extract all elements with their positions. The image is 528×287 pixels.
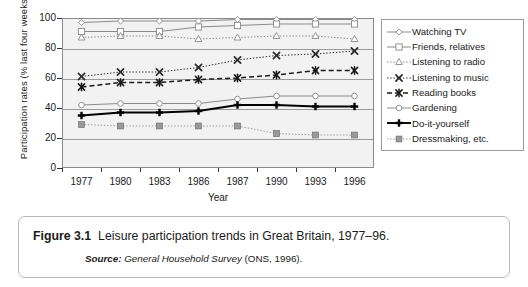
data-point-diamond-open (117, 18, 123, 24)
series-layer (62, 18, 374, 168)
data-point-square-filled (396, 136, 402, 142)
data-point-square-filled (196, 123, 202, 129)
legend-label: Dressmaking, etc. (412, 134, 489, 144)
data-point-diamond-open (234, 16, 240, 22)
y-tick-label: 20 (26, 133, 56, 143)
legend-symbol-square-open-icon (386, 40, 412, 54)
data-point-triangle-open (273, 33, 280, 39)
legend-label: Reading books (412, 88, 476, 98)
data-point-square-filled (313, 132, 319, 138)
data-point-triangle-open (312, 33, 319, 39)
legend-item-do-it-yourself[interactable]: Do-it-yourself (386, 116, 520, 131)
legend-item-friends-relatives[interactable]: Friends, relatives (386, 39, 520, 54)
data-point-square-filled (118, 123, 124, 129)
data-point-plus-bold (78, 112, 85, 119)
x-tick-mark (179, 168, 180, 172)
caption-title-line: Figure 3.1Leisure participation trends i… (33, 229, 389, 243)
y-tick-label: 40 (26, 103, 56, 113)
chart-legend: Watching TVFriends, relativesListening t… (381, 19, 524, 151)
data-point-circle-open (396, 105, 402, 111)
legend-item-listening-to-radio[interactable]: Listening to radio (386, 55, 520, 70)
line-chart: Participation rates (% last four weeks) … (0, 0, 528, 212)
series-listening-to-radio (78, 33, 358, 42)
figure-number: Figure 3.1 (33, 229, 91, 243)
caption-box: Figure 3.1Leisure participation trends i… (18, 216, 510, 278)
legend-label: Watching TV (412, 27, 466, 37)
legend-item-listening-to-music[interactable]: Listening to music (386, 70, 520, 85)
source-label: Source: (85, 253, 121, 264)
figure-title: Leisure participation trends in Great Br… (98, 229, 389, 243)
data-point-circle-open (157, 101, 163, 107)
y-tick-label: 60 (26, 73, 56, 83)
x-tick-mark (335, 168, 336, 172)
data-point-triangle-open (234, 34, 241, 40)
legend-symbol-asterisk-icon (386, 86, 412, 100)
legend-symbol-diamond-open-icon (386, 25, 412, 39)
series-dressmaking-etc (79, 122, 358, 138)
data-point-square-open (351, 21, 357, 27)
y-tick-label: 80 (26, 43, 56, 53)
legend-label: Gardening (412, 103, 457, 113)
data-point-square-open (234, 22, 240, 28)
data-point-x-cross (234, 57, 240, 63)
legend-label: Friends, relatives (412, 42, 485, 52)
x-tick-mark (257, 168, 258, 172)
x-tick-mark (296, 168, 297, 172)
legend-item-reading-books[interactable]: Reading books (386, 85, 520, 100)
x-tick-mark (218, 168, 219, 172)
data-point-circle-open (352, 93, 358, 99)
data-point-circle-open (196, 101, 202, 107)
x-tick-label: 1980 (109, 177, 131, 187)
data-point-square-open (195, 24, 201, 30)
data-point-square-filled (79, 122, 85, 128)
series-reading-books (78, 67, 357, 91)
x-tick-mark (140, 168, 141, 172)
legend-label: Do-it-yourself (412, 119, 469, 129)
legend-label: Listening to music (412, 73, 489, 83)
x-tick-mark (62, 168, 63, 172)
data-point-plus-bold (156, 109, 163, 116)
data-point-circle-open (79, 102, 85, 108)
data-point-plus-bold (395, 120, 402, 127)
data-point-plus-bold (312, 103, 319, 110)
legend-symbol-plus-bold-icon (386, 116, 412, 130)
x-tick-label: 1986 (187, 177, 209, 187)
data-point-square-filled (274, 131, 280, 137)
data-point-x-cross (78, 73, 84, 79)
data-point-diamond-open (396, 29, 402, 35)
x-tick-label: 1977 (70, 177, 92, 187)
y-tick-label: 100 (26, 13, 56, 23)
caption-source-line: Source: General Household Survey (ONS, 1… (85, 253, 302, 264)
legend-label: Listening to radio (412, 57, 485, 67)
x-tick-label: 1987 (226, 177, 248, 187)
legend-item-gardening[interactable]: Gardening (386, 100, 520, 115)
x-tick-label: 1983 (148, 177, 170, 187)
data-point-circle-open (235, 96, 241, 102)
data-point-diamond-open (78, 19, 84, 25)
data-point-circle-open (274, 93, 280, 99)
legend-symbol-square-filled-icon (386, 132, 412, 146)
data-point-plus-bold (117, 109, 124, 116)
x-tick-label: 1996 (343, 177, 365, 187)
legend-symbol-triangle-open-icon (386, 55, 412, 69)
x-tick-mark (101, 168, 102, 172)
data-point-plus-bold (234, 101, 241, 108)
y-tick-label: 0 (26, 163, 56, 173)
data-point-square-open (273, 21, 279, 27)
data-point-plus-bold (273, 101, 280, 108)
data-point-square-filled (352, 132, 358, 138)
source-name: General Household Survey (124, 253, 242, 264)
data-point-circle-open (118, 101, 124, 107)
data-point-plus-bold (351, 103, 358, 110)
legend-item-dressmaking-etc[interactable]: Dressmaking, etc. (386, 131, 520, 146)
legend-symbol-circle-open-icon (386, 101, 412, 115)
data-point-square-filled (157, 123, 163, 129)
x-tick-label: 1993 (304, 177, 326, 187)
source-detail: (ONS, 1996). (245, 253, 303, 264)
legend-item-watching-tv[interactable]: Watching TV (386, 24, 520, 39)
data-point-asterisk (351, 67, 357, 74)
x-tick-label: 1990 (265, 177, 287, 187)
data-point-square-open (312, 21, 318, 27)
data-point-square-open (396, 44, 402, 50)
figure-container: Participation rates (% last four weeks) … (0, 0, 528, 287)
